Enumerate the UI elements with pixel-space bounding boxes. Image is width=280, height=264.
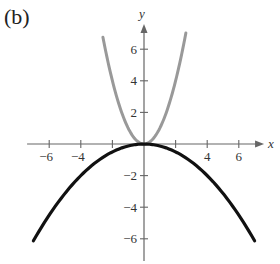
y-tick-label: 2 bbox=[131, 105, 138, 120]
y-tick-label: −6 bbox=[123, 231, 137, 246]
x-axis-label: x bbox=[267, 136, 274, 151]
x-tick-label: −6 bbox=[39, 149, 53, 164]
y-tick-label: 6 bbox=[131, 42, 138, 57]
x-axis-arrow-icon bbox=[255, 141, 264, 148]
tick-labels: −6−446−6−4−2246xy bbox=[39, 6, 274, 246]
y-axis-arrow-icon bbox=[141, 24, 148, 33]
x-tick-label: 4 bbox=[204, 149, 211, 164]
chart-plot: −6−446−6−4−2246xy bbox=[0, 0, 280, 264]
y-tick-label: −2 bbox=[123, 168, 137, 183]
y-axis-label: y bbox=[137, 6, 145, 21]
x-tick-label: 6 bbox=[236, 149, 243, 164]
x-tick-label: −4 bbox=[71, 149, 85, 164]
y-tick-label: −4 bbox=[123, 200, 137, 215]
y-tick-label: 4 bbox=[131, 73, 138, 88]
